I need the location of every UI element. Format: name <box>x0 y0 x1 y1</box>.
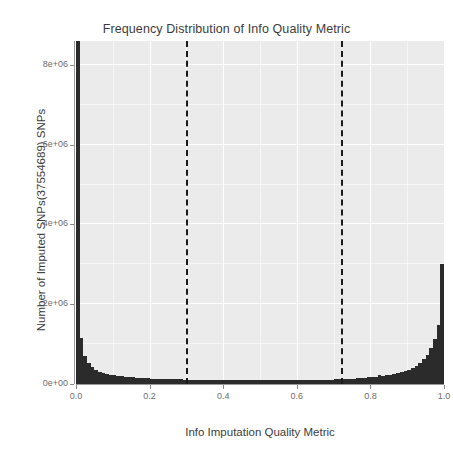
y-tick-mark-2 <box>70 224 74 225</box>
x-tick-mark-5 <box>444 385 445 389</box>
gridline-x-minor-0 <box>113 41 114 384</box>
chart-container: Frequency Distribution of Info Quality M… <box>0 0 453 464</box>
plot-panel <box>76 41 444 384</box>
gridline-x-minor-2 <box>260 41 261 384</box>
chart-title: Frequency Distribution of Info Quality M… <box>0 22 453 36</box>
x-tick-label-0: 0.0 <box>56 391 96 401</box>
x-tick-mark-2 <box>223 385 224 389</box>
x-tick-label-3: 0.6 <box>277 391 317 401</box>
x-tick-mark-4 <box>370 385 371 389</box>
y-tick-label-4: 8e+06 <box>8 59 68 69</box>
y-tick-mark-4 <box>70 65 74 66</box>
gridline-x-minor-4 <box>407 41 408 384</box>
x-tick-mark-0 <box>76 385 77 389</box>
y-tick-mark-1 <box>70 304 74 305</box>
x-tick-label-5: 1.0 <box>424 391 453 401</box>
y-tick-label-3: 6e+06 <box>8 139 68 149</box>
gridline-x-3 <box>297 41 298 384</box>
gridline-x-2 <box>223 41 224 384</box>
y-tick-label-2: 4e+06 <box>8 218 68 228</box>
y-tick-mark-0 <box>70 384 74 385</box>
x-tick-label-4: 0.8 <box>350 391 390 401</box>
y-tick-label-0: 0e+00 <box>8 378 68 388</box>
gridline-x-4 <box>370 41 371 384</box>
y-tick-mark-3 <box>70 145 74 146</box>
threshold-low <box>186 41 188 384</box>
x-tick-mark-3 <box>297 385 298 389</box>
y-axis-line <box>74 41 75 384</box>
gridline-x-minor-3 <box>334 41 335 384</box>
x-tick-label-1: 0.2 <box>130 391 170 401</box>
gridline-x-1 <box>150 41 151 384</box>
threshold-high <box>341 41 343 384</box>
histogram-bar <box>76 41 80 384</box>
x-axis-line <box>76 384 444 385</box>
x-axis-title: Info Imputation Quality Metric <box>75 426 445 438</box>
x-tick-mark-1 <box>150 385 151 389</box>
y-tick-label-1: 2e+06 <box>8 298 68 308</box>
x-tick-label-2: 0.4 <box>203 391 243 401</box>
histogram-bar <box>440 264 444 384</box>
